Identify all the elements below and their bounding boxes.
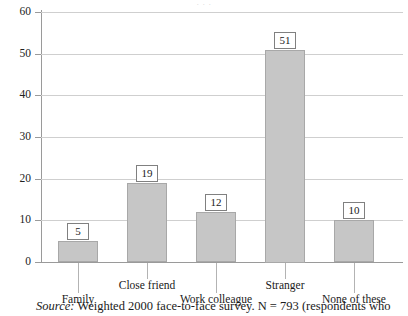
y-tick-label-40: 40 (2, 89, 31, 101)
x-tick-0 (78, 263, 79, 293)
clipped-header-text: · · · (0, 0, 408, 6)
bar (127, 183, 167, 262)
y-tick-40 (35, 95, 41, 96)
y-tick-60 (35, 12, 41, 13)
bar (334, 220, 374, 262)
gridline-60 (41, 12, 403, 13)
bar (58, 241, 98, 262)
source-text: Weighted 2000 face-to-face survey. N = 7… (77, 299, 390, 313)
x-tick-3 (285, 263, 286, 279)
source-label: Source: (36, 299, 74, 313)
y-tick-20 (35, 179, 41, 180)
y-tick-0 (35, 262, 41, 263)
x-tick-2 (216, 263, 217, 293)
y-tick-label-20: 20 (2, 173, 31, 185)
gridline-50 (41, 54, 403, 55)
y-tick-30 (35, 137, 41, 138)
bar-value-label: 5 (67, 223, 89, 240)
y-tick-label-0: 0 (2, 256, 31, 268)
bar-value-label: 51 (274, 32, 296, 49)
y-tick-label-10: 10 (2, 214, 31, 226)
y-tick-label-60: 60 (2, 6, 31, 18)
gridline-30 (41, 137, 403, 138)
y-tick-label-30: 30 (2, 131, 31, 143)
x-tick-4 (354, 263, 355, 293)
chart-figure: · · · 0102030405060 519125110 FamilyClos… (0, 0, 408, 316)
gridline-20 (41, 179, 403, 180)
bar (196, 212, 236, 262)
gridline-40 (41, 95, 403, 96)
y-tick-label-50: 50 (2, 48, 31, 60)
gridline-0 (41, 262, 403, 263)
x-axis-category-label: Close friend (87, 279, 207, 291)
x-axis-category-label: Stranger (225, 279, 345, 291)
bar-value-label: 19 (136, 165, 158, 182)
bar-value-label: 12 (205, 194, 227, 211)
y-tick-50 (35, 54, 41, 55)
x-tick-1 (147, 263, 148, 279)
source-note: Source: Weighted 2000 face-to-face surve… (36, 299, 390, 314)
bar (265, 50, 305, 263)
y-tick-10 (35, 220, 41, 221)
bar-value-label: 10 (343, 202, 365, 219)
